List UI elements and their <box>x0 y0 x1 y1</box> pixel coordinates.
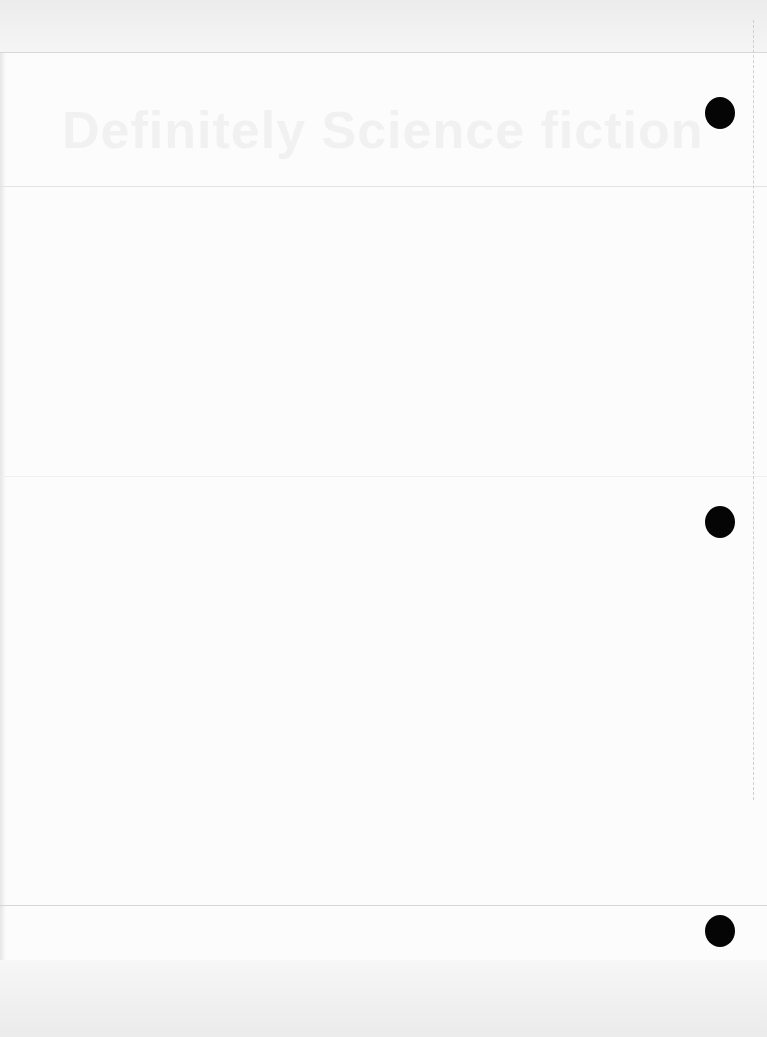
page-heading: Definitely Science fiction <box>62 100 704 160</box>
footer-rule <box>0 905 767 906</box>
middle-rule <box>0 476 767 477</box>
top-rule <box>0 52 767 53</box>
top-scan-band <box>0 0 767 52</box>
header-rule <box>0 186 767 187</box>
punch-hole-top-icon <box>705 97 735 129</box>
scan-edge-shadow <box>0 0 6 1037</box>
punch-hole-middle-icon <box>705 506 735 538</box>
right-edge-dashed-line <box>753 20 754 800</box>
punch-hole-bottom-icon <box>705 915 735 947</box>
bottom-scan-band <box>0 960 767 1037</box>
